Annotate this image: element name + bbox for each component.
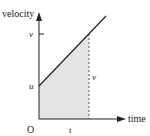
x-axis-label: time [128,113,146,124]
shaded-area [39,34,89,119]
origin-label: O [27,124,34,135]
x-tick-label-t: t [69,125,72,135]
x-axis-arrow-icon [117,116,126,122]
y-intercept-label: u [29,81,34,91]
velocity-time-diagram: velocity v u v O t time [0,0,150,136]
y-axis-label: velocity [2,8,34,19]
y-tick-label-v: v [29,29,33,39]
dashed-line-label: v [92,72,96,82]
y-axis-arrow-icon [36,12,42,21]
